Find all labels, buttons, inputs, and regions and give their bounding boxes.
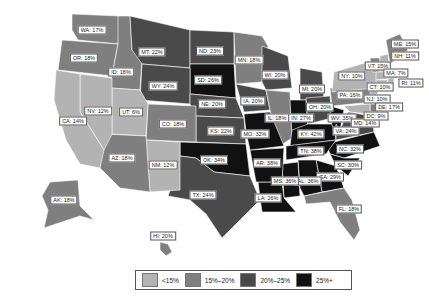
state-label-ar: AR: 38% [253, 159, 281, 168]
legend-swatch [296, 273, 312, 287]
state-label-nc: NC: 32% [336, 145, 364, 154]
state-label-ks: KS: 22% [207, 127, 234, 136]
state-label-ms: MS: 36% [271, 177, 299, 186]
legend-item-20-25: 20%–25% [240, 273, 290, 287]
state-label-sd: SD: 26% [194, 76, 222, 85]
state-label-in: IN: 27% [288, 114, 314, 123]
legend-swatch [142, 273, 158, 287]
state-label-ak: AK: 18% [50, 196, 77, 205]
legend-swatch [240, 273, 256, 287]
legend-item-25plus: 25%+ [296, 273, 333, 287]
legend-label: 25%+ [316, 277, 333, 284]
state-label-sc: SC: 30% [334, 161, 362, 170]
legend-item-lt15: <15% [142, 273, 179, 287]
state-label-ne: NE: 20% [198, 100, 226, 109]
state-mt [130, 16, 190, 68]
state-label-tx: TX: 24% [189, 191, 216, 200]
state-label-nh: NH: 11% [391, 52, 419, 61]
state-label-wa: WA: 17% [78, 26, 107, 35]
state-label-mn: MN: 18% [235, 56, 264, 65]
state-label-va: VA: 24% [333, 127, 360, 136]
state-label-ma: MA: 7% [383, 69, 408, 78]
state-label-ky: KY: 42% [297, 130, 324, 139]
state-label-hi: HI: 20% [150, 232, 176, 241]
state-label-ok: OK: 34% [200, 156, 228, 165]
state-label-la: LA: 26% [255, 194, 282, 203]
state-label-wy: WY: 24% [149, 82, 178, 91]
state-label-ny: NY: 10% [338, 72, 365, 81]
legend-item-15-20: 15%–20% [185, 273, 235, 287]
state-label-nm: NM: 12% [149, 161, 178, 170]
state-label-az: AZ: 18% [108, 154, 135, 163]
legend-swatch [185, 273, 201, 287]
state-label-id: ID: 18% [108, 68, 134, 77]
state-label-ia: IA: 20% [240, 97, 265, 106]
legend-label: 15%–20% [205, 277, 235, 284]
state-label-or: OR: 18% [70, 54, 98, 63]
state-fl [304, 188, 360, 240]
legend: <15% 15%–20% 20%–25% 25%+ [135, 270, 352, 290]
state-label-mi: MI: 20% [299, 85, 325, 94]
state-label-oh: OH: 20% [306, 103, 334, 112]
state-label-mt: MT: 22% [138, 48, 165, 57]
state-hi [160, 242, 172, 256]
state-label-de: DE: 17% [375, 103, 403, 112]
legend-label: <15% [162, 277, 179, 284]
state-label-pa: PA: 16% [337, 91, 364, 100]
state-label-tn: TN: 38% [297, 147, 324, 156]
state-label-nd: ND: 23% [196, 47, 224, 56]
state-label-co: CO: 18% [159, 120, 187, 129]
state-label-ri: RI: 11% [398, 79, 423, 88]
state-label-il: IL: 18% [265, 114, 290, 123]
state-label-ca: CA: 14% [59, 117, 87, 126]
state-label-ut: UT: 6% [119, 108, 143, 117]
legend-label: 20%–25% [260, 277, 290, 284]
state-label-ct: CT: 10% [367, 83, 394, 92]
state-label-fl: FL: 18% [336, 205, 362, 214]
state-label-me: ME: 15% [391, 40, 419, 49]
state-label-wi: WI: 20% [262, 71, 289, 80]
state-label-nv: NV: 12% [84, 107, 112, 116]
state-label-mo: MO: 32% [241, 130, 270, 139]
state-wi [262, 46, 292, 90]
state-label-dc: DC: 9% [364, 112, 389, 121]
